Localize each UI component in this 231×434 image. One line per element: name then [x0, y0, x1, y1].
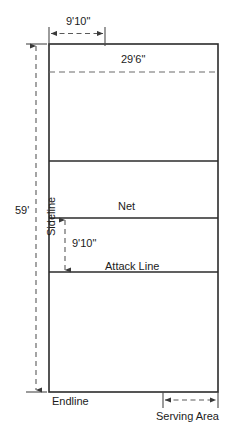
attack-zone-width-label: 9'10" — [66, 16, 90, 27]
volleyball-court-diagram: 9'10" 29'6" 59' Sideline Net 9'10" Attac… — [0, 0, 231, 434]
net-label: Net — [118, 201, 135, 212]
attack-line-label: Attack Line — [105, 261, 159, 272]
court-drawing — [0, 0, 231, 434]
court-length-label: 59' — [15, 205, 29, 216]
serving-area-dimension — [163, 392, 218, 408]
sideline-label: Sideline — [46, 197, 57, 236]
serving-area-label: Serving Area — [156, 411, 219, 422]
court-width-label: 29'6" — [121, 54, 145, 65]
endline-label: Endline — [52, 396, 89, 407]
attack-zone-width-dimension — [49, 27, 105, 46]
court-length-dimension — [26, 44, 47, 392]
attack-zone-depth-label: 9'10" — [72, 238, 96, 249]
